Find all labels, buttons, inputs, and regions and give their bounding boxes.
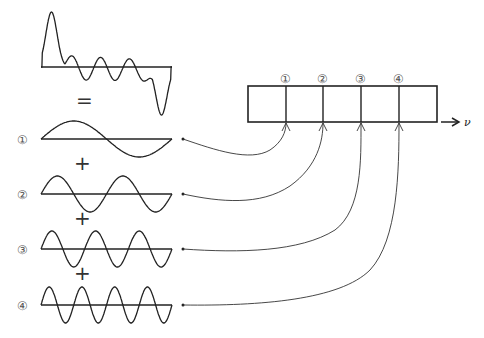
- connector-2: [183, 123, 323, 201]
- connector-1: [183, 123, 286, 155]
- connector-3: [183, 123, 361, 251]
- plus-sign-3: +: [74, 261, 91, 285]
- fourier-diagram: = ①+②+③+④ ① ② ③ ④ ν: [0, 0, 484, 338]
- component-label-4: ④: [17, 299, 28, 313]
- bin-label-1: ①: [280, 72, 291, 86]
- connector-4: [183, 123, 399, 305]
- component-label-1: ①: [17, 133, 28, 147]
- sum-waveform: [41, 12, 172, 115]
- sum-curve: [41, 12, 172, 115]
- bin-label-3: ③: [355, 72, 366, 86]
- spectrum-box: ① ② ③ ④ ν: [248, 72, 471, 129]
- component-label-3: ③: [17, 243, 28, 257]
- bin-label-4: ④: [393, 72, 404, 86]
- connectors: [182, 123, 404, 307]
- frequency-axis-label: ν: [464, 116, 471, 129]
- plus-sign-2: +: [74, 206, 91, 230]
- spectrum-frame: [248, 86, 437, 122]
- component-waves: ①+②+③+④: [17, 121, 172, 323]
- plus-sign-1: +: [74, 151, 91, 175]
- component-label-2: ②: [17, 188, 28, 202]
- equals-sign: =: [76, 88, 93, 112]
- bin-label-2: ②: [317, 72, 328, 86]
